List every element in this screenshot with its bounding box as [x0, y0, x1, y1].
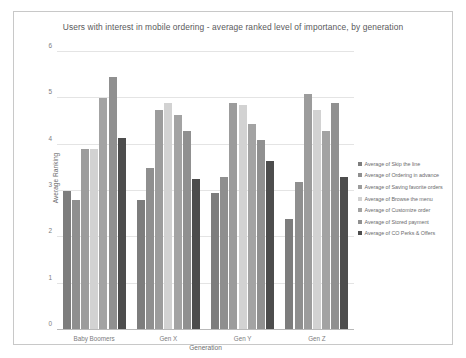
- bar[interactable]: [220, 177, 228, 330]
- legend-swatch-icon: [358, 220, 362, 224]
- chart-title: Users with interest in mobile ordering -…: [14, 22, 452, 32]
- bar[interactable]: [174, 115, 182, 330]
- bar[interactable]: [109, 77, 117, 330]
- bar[interactable]: [72, 200, 80, 330]
- x-axis-tick-label: Gen Z: [280, 335, 354, 342]
- legend-swatch-icon: [358, 185, 362, 189]
- bar[interactable]: [266, 161, 274, 330]
- legend-swatch-icon: [358, 208, 362, 212]
- bar-group: Gen X: [131, 52, 205, 330]
- bar-groups: Baby BoomersGen XGen YGen Z: [57, 52, 354, 330]
- y-axis-tick-label: 0: [48, 320, 52, 327]
- legend-swatch-icon: [358, 162, 362, 166]
- legend-label: Average of Skip the line: [365, 161, 421, 167]
- bar-group: Baby Boomers: [57, 52, 131, 330]
- bar[interactable]: [183, 131, 191, 330]
- bar[interactable]: [285, 219, 293, 330]
- y-axis-tick-label: 1: [48, 273, 52, 280]
- chart-legend: Average of Skip the lineAverage of Order…: [358, 158, 466, 239]
- legend-item[interactable]: Average of Customize order: [358, 204, 466, 216]
- bar[interactable]: [63, 191, 71, 330]
- bar[interactable]: [99, 98, 107, 330]
- legend-label: Average of Ordering in advance: [365, 172, 440, 178]
- y-axis-tick-label: 5: [48, 88, 52, 95]
- bar[interactable]: [90, 149, 98, 330]
- bar[interactable]: [192, 179, 200, 330]
- bar[interactable]: [340, 177, 348, 330]
- legend-label: Average of Saving favorite orders: [365, 184, 443, 190]
- y-axis-tick-label: 2: [48, 227, 52, 234]
- legend-item[interactable]: Average of Saving favorite orders: [358, 181, 466, 193]
- x-axis-tick-label: Baby Boomers: [57, 335, 131, 342]
- legend-swatch-icon: [358, 197, 362, 201]
- x-axis-tick-label: Gen X: [131, 335, 205, 342]
- bar-group: Gen Z: [280, 52, 354, 330]
- bar[interactable]: [118, 138, 126, 330]
- legend-label: Average of Stored payment: [365, 219, 429, 225]
- bar[interactable]: [295, 182, 303, 330]
- bar[interactable]: [239, 105, 247, 330]
- bar[interactable]: [164, 103, 172, 330]
- bar[interactable]: [137, 200, 145, 330]
- y-axis-tick-label: 6: [48, 42, 52, 49]
- plot-area: 0123456 Baby BoomersGen XGen YGen Z: [57, 52, 354, 330]
- x-axis-line: [57, 329, 354, 330]
- bar[interactable]: [155, 110, 163, 330]
- bar[interactable]: [313, 110, 321, 330]
- y-axis-tick-label: 4: [48, 134, 52, 141]
- legend-label: Average of CO Perks & Offers: [365, 230, 436, 236]
- legend-item[interactable]: Average of CO Perks & Offers: [358, 228, 466, 240]
- chart-container: Users with interest in mobile ordering -…: [13, 11, 453, 345]
- bar[interactable]: [331, 103, 339, 330]
- legend-swatch-icon: [358, 231, 362, 235]
- x-axis-title: Generation: [57, 344, 354, 351]
- legend-label: Average of Customize order: [365, 207, 431, 213]
- legend-item[interactable]: Average of Skip the line: [358, 158, 466, 170]
- bar[interactable]: [229, 103, 237, 330]
- y-axis-tick-label: 3: [48, 181, 52, 188]
- legend-item[interactable]: Average of Ordering in advance: [358, 170, 466, 182]
- bar[interactable]: [146, 168, 154, 330]
- bar[interactable]: [81, 149, 89, 330]
- bar[interactable]: [257, 140, 265, 330]
- legend-item[interactable]: Average of Stored payment: [358, 216, 466, 228]
- legend-swatch-icon: [358, 173, 362, 177]
- bar[interactable]: [322, 131, 330, 330]
- bar[interactable]: [304, 94, 312, 330]
- bar-group: Gen Y: [206, 52, 280, 330]
- bar[interactable]: [211, 193, 219, 330]
- bar[interactable]: [248, 124, 256, 330]
- legend-item[interactable]: Average of Browse the menu: [358, 193, 466, 205]
- legend-label: Average of Browse the menu: [365, 196, 433, 202]
- x-axis-tick-label: Gen Y: [206, 335, 280, 342]
